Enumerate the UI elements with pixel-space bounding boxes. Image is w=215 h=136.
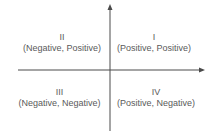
quadrant-signs: (Negative, Negative): [18, 98, 100, 108]
quadrant-numeral: IV: [111, 87, 201, 98]
quadrant-numeral: I: [111, 32, 197, 43]
quadrant-numeral: III: [11, 87, 108, 98]
quadrant-i: I (Positive, Positive): [111, 32, 197, 54]
quadrant-numeral: II: [16, 32, 108, 43]
quadrant-iii: III (Negative, Negative): [11, 87, 108, 109]
x-axis-arrow-icon: [199, 68, 205, 73]
quadrant-ii: II (Negative, Positive): [16, 32, 108, 54]
quadrant-iv: IV (Positive, Negative): [111, 87, 201, 109]
y-axis-arrow-icon: [108, 4, 113, 10]
quadrant-signs: (Negative, Positive): [23, 43, 101, 53]
quadrant-signs: (Positive, Positive): [117, 43, 191, 53]
axes: [0, 0, 215, 136]
quadrant-signs: (Positive, Negative): [117, 98, 195, 108]
